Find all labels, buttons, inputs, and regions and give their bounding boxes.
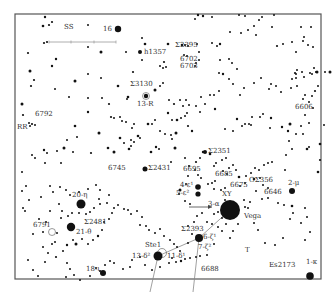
- star: [49, 185, 51, 187]
- star: [329, 71, 332, 74]
- star: [295, 133, 297, 135]
- star: [215, 162, 217, 164]
- star: [126, 98, 128, 100]
- star: [307, 44, 309, 46]
- star: [31, 154, 33, 156]
- bright-star: [143, 167, 148, 172]
- star: [295, 51, 297, 53]
- star: [74, 80, 77, 83]
- star: [309, 231, 311, 233]
- star: [314, 90, 316, 92]
- star: [308, 146, 310, 148]
- bright-star: [195, 234, 203, 242]
- star-label-es2173: Es2173: [269, 261, 296, 269]
- star: [93, 207, 95, 209]
- star-label-e1: 4-ε¹: [180, 181, 193, 189]
- star: [55, 256, 57, 258]
- star: [22, 207, 24, 209]
- star: [264, 242, 266, 244]
- star: [288, 140, 290, 142]
- star: [127, 209, 129, 211]
- star: [261, 198, 263, 200]
- star: [232, 130, 234, 132]
- star: [300, 26, 302, 28]
- star: [164, 133, 166, 135]
- star-label-rr: RR: [17, 123, 28, 131]
- star: [302, 98, 304, 100]
- star: [250, 172, 252, 174]
- star: [176, 246, 178, 248]
- star: [170, 161, 172, 163]
- bright-star: [195, 191, 200, 196]
- star: [295, 73, 297, 75]
- star: [245, 175, 247, 177]
- star: [56, 150, 58, 152]
- star: [173, 103, 175, 105]
- star: [290, 87, 292, 89]
- star: [76, 136, 78, 138]
- star: [51, 243, 53, 245]
- star: [255, 34, 257, 36]
- bright-star: [115, 26, 121, 32]
- star: [34, 157, 36, 159]
- star-label-n6685: 6685: [215, 170, 233, 178]
- star: [159, 65, 161, 67]
- star: [232, 83, 234, 85]
- star: [151, 269, 153, 271]
- star: [303, 76, 305, 78]
- star: [236, 118, 238, 120]
- star: [180, 260, 182, 262]
- star: [85, 213, 87, 215]
- star-label-s3130: Σ3130: [130, 80, 153, 88]
- star: [309, 72, 311, 74]
- star: [98, 132, 101, 135]
- star: [128, 148, 131, 151]
- star: [225, 223, 227, 225]
- star: [40, 196, 42, 198]
- star: [317, 85, 319, 87]
- star: [113, 207, 115, 209]
- star: [292, 212, 294, 214]
- star: [75, 243, 78, 246]
- star: [148, 229, 150, 231]
- star: [145, 225, 147, 227]
- star: [304, 114, 306, 116]
- star: [271, 161, 273, 163]
- star: [187, 125, 189, 127]
- star: [206, 254, 208, 256]
- star: [136, 210, 138, 212]
- star-label-s2395: Σ2395: [175, 41, 198, 49]
- star: [108, 194, 110, 196]
- star: [144, 264, 146, 266]
- star: [249, 201, 251, 203]
- star: [87, 46, 89, 48]
- star: [262, 184, 264, 186]
- star: [228, 58, 230, 60]
- star: [101, 229, 103, 231]
- bright-star: [203, 150, 207, 154]
- bright-star: [100, 270, 106, 276]
- star: [269, 127, 271, 129]
- star: [144, 43, 147, 46]
- star: [61, 210, 63, 212]
- star: [87, 111, 89, 113]
- star: [258, 19, 260, 21]
- star: [119, 137, 122, 140]
- star: [189, 257, 191, 259]
- star: [117, 204, 119, 206]
- star: [209, 94, 211, 96]
- star: [244, 123, 246, 125]
- star: [44, 16, 46, 18]
- star: [30, 85, 32, 87]
- star-label-n6646: 6646: [264, 188, 282, 196]
- star: [195, 161, 197, 163]
- star: [221, 230, 223, 232]
- star: [87, 188, 89, 190]
- star: [130, 139, 132, 141]
- star: [130, 213, 132, 215]
- star: [47, 252, 49, 254]
- star: [184, 157, 186, 159]
- bright-star: [144, 94, 148, 98]
- star: [109, 260, 111, 262]
- star: [110, 116, 112, 118]
